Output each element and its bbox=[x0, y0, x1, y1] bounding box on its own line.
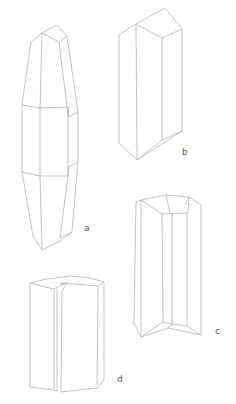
crystal-a-drawing bbox=[22, 25, 78, 250]
crystal-a-label: a bbox=[84, 224, 90, 233]
crystal-b-drawing bbox=[119, 8, 182, 160]
crystal-drawings bbox=[0, 0, 236, 404]
crystal-c-label: c bbox=[215, 327, 220, 336]
crystal-c-drawing bbox=[134, 195, 201, 337]
crystal-b-label: b bbox=[182, 148, 188, 157]
crystal-d-label: d bbox=[117, 375, 123, 384]
crystal-d-drawing bbox=[30, 276, 104, 392]
